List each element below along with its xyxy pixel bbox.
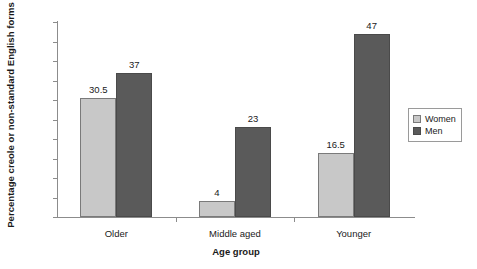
bar-women-younger[interactable] (318, 153, 354, 217)
x-axis-line (57, 217, 415, 218)
bar-women-middle-aged[interactable] (199, 201, 235, 217)
bar-value-label: 16.5 (310, 139, 362, 150)
bar-value-label: 30.5 (72, 84, 124, 95)
y-axis-title-text: Percentage creole or non-standard Englis… (5, 2, 16, 228)
bar-chart: Percentage creole or non-standard Englis… (0, 0, 477, 269)
bar-value-label: 47 (346, 20, 398, 31)
x-axis-category-label: Older (56, 228, 176, 239)
legend: Women Men (408, 108, 462, 142)
legend-swatch-women-icon (413, 115, 421, 123)
y-axis-title: Percentage creole or non-standard Englis… (2, 8, 18, 222)
legend-swatch-men-icon (413, 127, 421, 135)
bar-men-middle-aged[interactable] (235, 127, 271, 217)
legend-item-women[interactable]: Women (413, 113, 457, 125)
x-axis-tick-mark (294, 218, 295, 222)
bar-value-label: 37 (108, 59, 160, 70)
x-axis-tick-mark (176, 218, 177, 222)
bar-value-label: 23 (227, 113, 279, 124)
bar-men-younger[interactable] (354, 34, 390, 217)
x-axis-category-label: Middle aged (175, 228, 295, 239)
x-axis-title: Age group (57, 246, 415, 257)
y-axis-tick-mark (53, 217, 57, 218)
x-axis-category-label: Younger (294, 228, 414, 239)
bar-women-older[interactable] (80, 98, 116, 217)
legend-label-men: Men (425, 126, 443, 136)
bar-value-label: 4 (191, 187, 243, 198)
legend-item-men[interactable]: Men (413, 125, 457, 137)
legend-label-women: Women (425, 114, 456, 124)
